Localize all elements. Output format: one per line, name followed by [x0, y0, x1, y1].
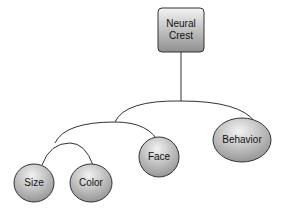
node-size-label: Size	[14, 175, 54, 191]
arc-bottom	[42, 143, 93, 165]
node-color-label: Color	[70, 175, 112, 191]
node-behavior-label: Behavior	[213, 132, 271, 148]
root-node-label: Neural Crest	[158, 8, 204, 52]
root-label-line2: Crest	[169, 30, 193, 42]
node-face-label: Face	[139, 149, 179, 165]
root-label-line1: Neural	[166, 18, 195, 30]
arc-mid	[55, 122, 160, 145]
